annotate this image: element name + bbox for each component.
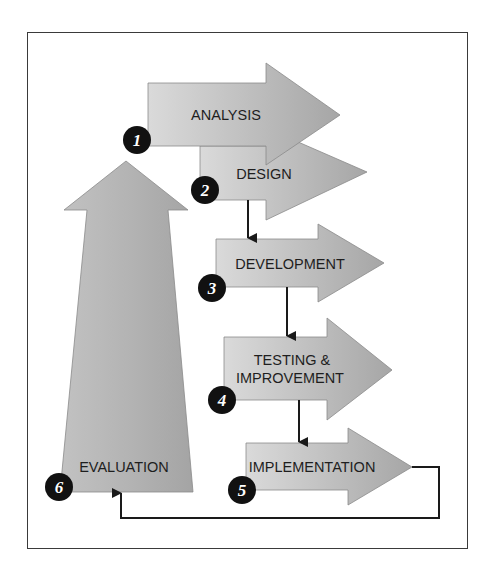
- step-implementation-label: IMPLEMENTATION: [249, 459, 376, 475]
- step-implementation-arrow: IMPLEMENTATION: [246, 428, 412, 505]
- step-design-label: DESIGN: [236, 166, 292, 182]
- step-testing-label-line1: TESTING &: [254, 352, 331, 368]
- step-testing-label-line2: IMPROVEMENT: [236, 370, 344, 386]
- step-badge-5: 5: [228, 476, 256, 504]
- step-badge-1: 1: [123, 126, 151, 154]
- svg-text:5: 5: [238, 481, 247, 500]
- process-cycle-diagram: EVALUATION DESIGN ANALYSIS DEVELOPMENT T…: [0, 0, 497, 583]
- step-evaluation-label: EVALUATION: [79, 459, 169, 475]
- svg-text:6: 6: [55, 478, 64, 497]
- step-badge-3: 3: [198, 274, 226, 302]
- step-testing-arrow: TESTING & IMPROVEMENT: [224, 318, 392, 420]
- step-development-label: DEVELOPMENT: [235, 256, 345, 272]
- step-badge-2: 2: [191, 176, 219, 204]
- step-analysis-label: ANALYSIS: [191, 107, 261, 123]
- svg-text:1: 1: [133, 131, 142, 150]
- step-development-arrow: DEVELOPMENT: [216, 224, 384, 302]
- step-badge-6: 6: [45, 473, 73, 501]
- diagram-canvas: EVALUATION DESIGN ANALYSIS DEVELOPMENT T…: [0, 0, 497, 583]
- svg-text:4: 4: [217, 391, 227, 410]
- svg-text:3: 3: [207, 279, 217, 298]
- step-evaluation-arrow: EVALUATION: [60, 161, 193, 492]
- svg-text:2: 2: [200, 181, 210, 200]
- step-badge-4: 4: [208, 386, 236, 414]
